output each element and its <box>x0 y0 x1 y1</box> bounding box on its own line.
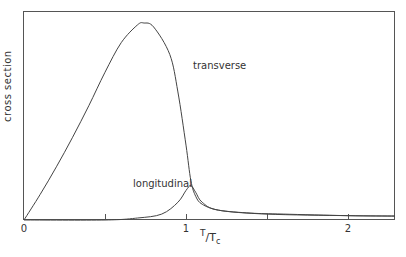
transverse-label: transverse <box>193 60 246 71</box>
transverse-curve <box>24 23 395 220</box>
x-label-denominator: T <box>209 231 216 244</box>
chart-plot-area <box>0 0 406 257</box>
x-axis-label: T/Tc <box>200 228 220 246</box>
longitudinal-label: longitudinal <box>133 178 192 189</box>
longitudinal-curve <box>24 185 395 220</box>
x-tick-label-2: 2 <box>345 223 351 234</box>
x-tick-label-1: 1 <box>183 223 189 234</box>
x-tick-label-0: 0 <box>21 223 27 234</box>
y-axis-label: cross section <box>2 50 13 122</box>
x-label-subscript: c <box>216 237 220 246</box>
x-label-numerator: T <box>200 228 206 238</box>
plot-frame <box>24 12 395 220</box>
